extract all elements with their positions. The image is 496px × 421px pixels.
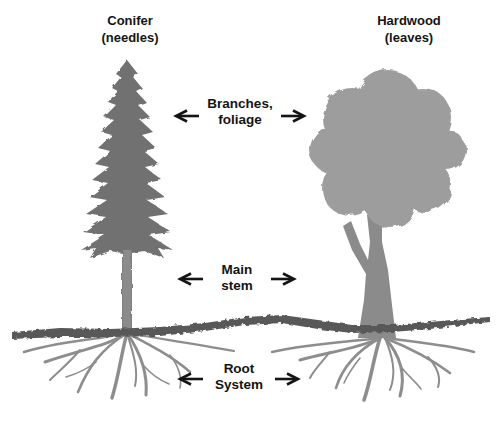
conifer-tree (81, 60, 173, 333)
left-arrow-icon (176, 371, 204, 387)
conifer-title-line1: Conifer (65, 12, 195, 29)
main-stem-text: Main stem (206, 262, 268, 294)
right-arrow-icon (270, 271, 298, 287)
tree-comparison-figure: Conifer (needles) Hardwood (leaves) Bran… (0, 0, 496, 421)
conifer-trunk (123, 250, 132, 333)
right-arrow-icon (280, 108, 308, 124)
left-arrow-icon (176, 271, 204, 287)
root-system-label: Root System (176, 361, 302, 393)
hardwood-title-line1: Hardwood (344, 12, 474, 29)
left-arrow-icon (172, 108, 200, 124)
right-arrow-icon (274, 371, 302, 387)
hardwood-trunk (343, 212, 396, 338)
branches-foliage-label: Branches, foliage (172, 96, 308, 128)
conifer-title: Conifer (needles) (65, 12, 195, 46)
root-system-text: Root System (206, 361, 272, 393)
hardwood-crown (310, 70, 466, 228)
main-stem-label: Main stem (176, 262, 298, 294)
hardwood-roots (272, 338, 474, 400)
hardwood-title-line2: (leaves) (344, 29, 474, 46)
branches-foliage-text: Branches, foliage (205, 96, 275, 128)
tree-illustration (0, 0, 496, 421)
conifer-title-line2: (needles) (65, 29, 195, 46)
hardwood-title: Hardwood (leaves) (344, 12, 474, 46)
ground-line (12, 315, 490, 339)
